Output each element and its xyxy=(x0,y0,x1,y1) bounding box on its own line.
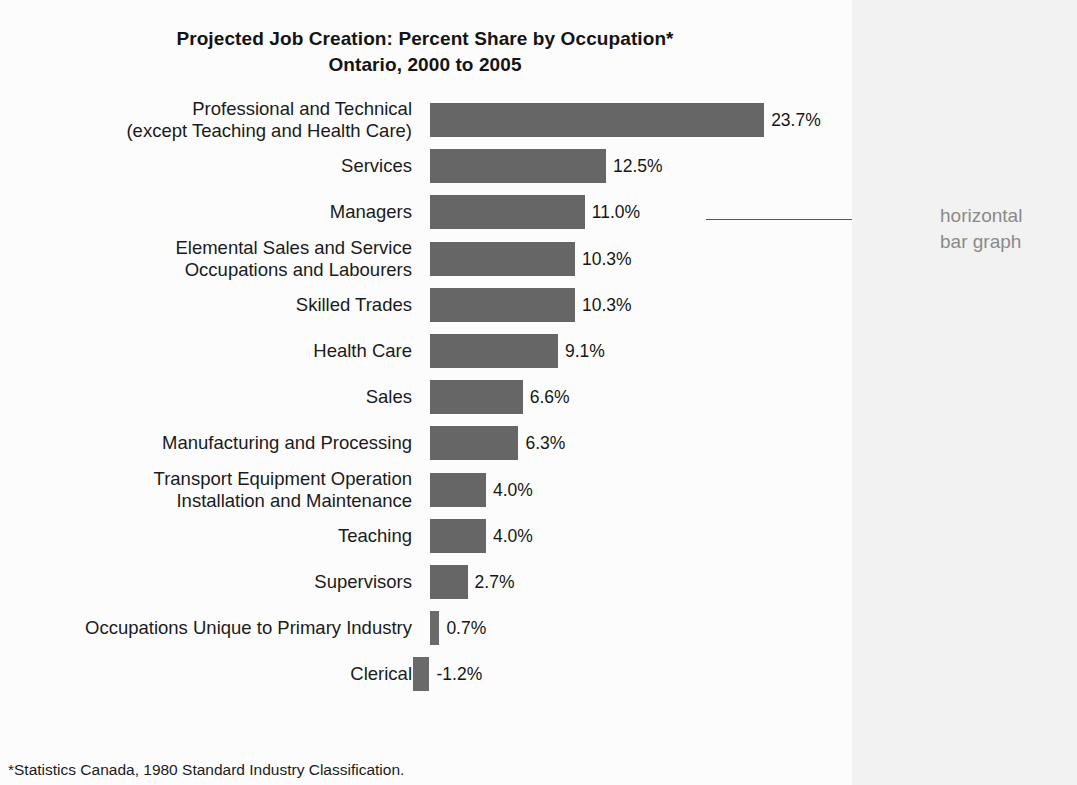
bar xyxy=(430,426,519,460)
value-label: 10.3% xyxy=(582,295,632,315)
category-label: Occupations Unique to Primary Industry xyxy=(0,617,412,639)
category-label: Professional and Technical (except Teach… xyxy=(0,98,412,142)
bar xyxy=(430,103,765,137)
annotation-label: horizontal bar graph xyxy=(940,203,1070,255)
chart-title: Projected Job Creation: Percent Share by… xyxy=(60,26,790,78)
chart-title-line-2: Ontario, 2000 to 2005 xyxy=(60,52,790,78)
category-label: Supervisors xyxy=(0,571,412,593)
bar xyxy=(430,565,468,599)
category-label: Teaching xyxy=(0,525,412,547)
bar xyxy=(430,611,440,645)
bar xyxy=(430,473,486,507)
value-label: 10.3% xyxy=(582,249,632,269)
value-label: -1.2% xyxy=(437,664,483,684)
category-label: Sales xyxy=(0,386,412,408)
category-label: Managers xyxy=(0,201,412,223)
value-label: 6.3% xyxy=(525,433,565,453)
category-label: Elemental Sales and Service Occupations … xyxy=(0,237,412,281)
bar xyxy=(430,195,585,229)
bar xyxy=(430,519,486,553)
value-label: 11.0% xyxy=(592,202,640,222)
chart-title-line-1: Projected Job Creation: Percent Share by… xyxy=(60,26,790,52)
category-label: Transport Equipment Operation Installati… xyxy=(0,468,412,512)
bar-chart: Professional and Technical (except Teach… xyxy=(0,96,852,716)
chart-footnote: *Statistics Canada, 1980 Standard Indust… xyxy=(8,760,404,779)
value-label: 2.7% xyxy=(475,572,515,592)
category-label: Services xyxy=(0,155,412,177)
bar xyxy=(430,288,575,322)
category-label: Clerical xyxy=(0,663,412,685)
value-label: 4.0% xyxy=(493,526,533,546)
right-margin-panel xyxy=(852,0,1077,785)
category-label: Health Care xyxy=(0,340,412,362)
bar xyxy=(430,380,523,414)
value-label: 9.1% xyxy=(565,341,605,361)
category-label: Manufacturing and Processing xyxy=(0,432,412,454)
value-label: 6.6% xyxy=(530,387,570,407)
value-label: 23.7% xyxy=(771,110,821,130)
category-label: Skilled Trades xyxy=(0,294,412,316)
value-label: 0.7% xyxy=(446,618,486,638)
bar xyxy=(430,242,575,276)
value-label: 4.0% xyxy=(493,480,533,500)
bar xyxy=(430,149,607,183)
bar xyxy=(413,657,430,691)
annotation-leader-line xyxy=(706,219,852,220)
bar xyxy=(430,334,558,368)
value-label: 12.5% xyxy=(613,156,663,176)
